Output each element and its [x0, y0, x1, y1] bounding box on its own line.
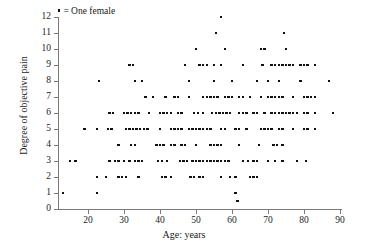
x-axis-label: Age: years — [0, 229, 368, 240]
data-point — [157, 160, 159, 162]
x-tick-label: 20 — [75, 216, 101, 226]
data-point — [238, 96, 240, 98]
data-point — [213, 160, 215, 162]
y-tick-label: 4 — [29, 140, 51, 150]
data-point — [134, 80, 136, 82]
data-point — [166, 160, 168, 162]
data-point — [209, 144, 211, 146]
data-point — [202, 160, 204, 162]
y-tick-label: 11 — [29, 28, 51, 38]
data-point — [218, 112, 220, 114]
data-point — [220, 160, 222, 162]
data-point — [198, 128, 200, 130]
data-point — [328, 80, 330, 82]
data-point — [110, 128, 112, 130]
data-point — [222, 112, 224, 114]
data-point — [314, 112, 316, 114]
x-tick-mark — [304, 210, 305, 214]
data-point — [234, 192, 236, 194]
data-point — [263, 128, 265, 130]
data-point — [231, 96, 233, 98]
data-point — [173, 144, 175, 146]
data-point — [278, 96, 280, 98]
data-point — [274, 96, 276, 98]
data-point — [278, 64, 280, 66]
data-point — [258, 144, 260, 146]
data-point — [125, 128, 127, 130]
data-point — [263, 48, 265, 50]
data-point — [155, 144, 157, 146]
data-point — [180, 112, 182, 114]
data-point — [242, 160, 244, 162]
data-point — [188, 128, 190, 130]
data-point — [270, 64, 272, 66]
data-point — [206, 96, 208, 98]
data-point — [137, 176, 139, 178]
data-point — [213, 96, 215, 98]
data-point — [238, 112, 240, 114]
y-tick-label: 0 — [29, 204, 51, 214]
data-point — [299, 64, 301, 66]
data-point — [198, 64, 200, 66]
data-point — [166, 112, 168, 114]
data-point — [198, 160, 200, 162]
data-point — [108, 160, 110, 162]
data-point — [107, 128, 109, 130]
data-point — [274, 112, 276, 114]
y-tick-label: 12 — [29, 12, 51, 22]
data-point — [202, 176, 204, 178]
data-point — [164, 96, 166, 98]
data-point — [281, 144, 283, 146]
data-point — [288, 112, 290, 114]
data-point — [278, 80, 280, 82]
data-point — [132, 128, 134, 130]
data-point — [278, 128, 280, 130]
data-point — [162, 112, 164, 114]
data-point — [242, 96, 244, 98]
data-point — [247, 160, 249, 162]
data-point — [164, 176, 166, 178]
data-point — [98, 80, 100, 82]
data-point — [198, 176, 200, 178]
data-point — [184, 64, 186, 66]
x-tick-label: 70 — [255, 216, 281, 226]
data-point — [303, 128, 305, 130]
data-point — [191, 128, 193, 130]
data-point — [270, 96, 272, 98]
data-point — [193, 176, 195, 178]
data-point — [242, 64, 244, 66]
data-point — [245, 128, 247, 130]
data-point — [263, 112, 265, 114]
data-point — [332, 112, 334, 114]
y-axis-label: Degree of objective pain — [18, 11, 29, 201]
data-point — [206, 128, 208, 130]
data-point — [227, 160, 229, 162]
data-point — [125, 176, 127, 178]
y-tick-label: 9 — [29, 60, 51, 70]
y-tick-label: 3 — [29, 156, 51, 166]
data-point — [256, 176, 258, 178]
data-point — [236, 200, 238, 202]
data-point — [173, 96, 175, 98]
data-point — [105, 176, 107, 178]
data-point — [130, 112, 132, 114]
data-point — [242, 112, 244, 114]
x-tick-mark — [268, 210, 269, 214]
data-point — [195, 144, 197, 146]
data-point — [234, 128, 236, 130]
y-tick-label: 8 — [29, 76, 51, 86]
x-tick-mark — [232, 210, 233, 214]
data-point — [238, 128, 240, 130]
data-point — [252, 160, 254, 162]
data-point — [220, 144, 222, 146]
data-point — [141, 80, 143, 82]
scatter-plot-figure: = One female 0123456789101112 2030405060… — [0, 0, 368, 248]
data-point — [292, 128, 294, 130]
data-point — [252, 176, 254, 178]
data-point — [179, 160, 181, 162]
legend-label: = One female — [63, 6, 115, 16]
data-point — [134, 160, 136, 162]
data-point — [274, 64, 276, 66]
y-tick-label: 1 — [29, 188, 51, 198]
data-point — [117, 144, 119, 146]
